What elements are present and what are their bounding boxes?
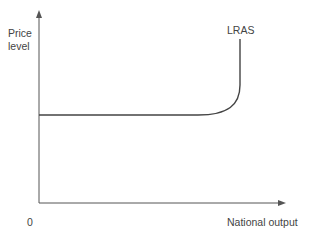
y-axis-label-line1: Price: [8, 27, 32, 39]
origin-label: 0: [27, 216, 33, 228]
lras-label: LRAS: [227, 24, 254, 36]
chart-canvas: [0, 0, 318, 233]
lras-curve: [39, 39, 240, 115]
y-axis-label-line2: level: [8, 40, 30, 52]
x-axis-label: National output: [227, 216, 298, 228]
